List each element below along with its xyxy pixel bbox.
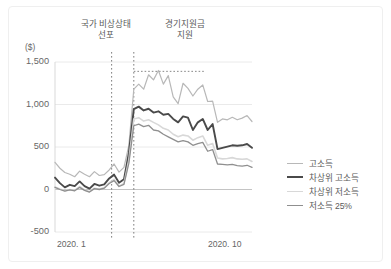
legend-line-icon	[287, 163, 303, 164]
series-line	[55, 124, 252, 192]
legend-item[interactable]: 차상위 고소득	[287, 170, 387, 184]
x-tick-label: 2020. 1	[57, 239, 86, 249]
legend-item-label: 차상위 고소득	[309, 171, 359, 183]
legend-line-icon	[287, 191, 303, 192]
legend-line-icon	[287, 176, 303, 178]
y-tick-label: 500	[9, 141, 49, 151]
data-series-group	[55, 71, 252, 193]
plot-area	[0, 0, 391, 269]
legend-item[interactable]: 차상위 저소득	[287, 184, 387, 198]
legend-item[interactable]: 고소득	[287, 156, 387, 170]
legend-item-label: 고소득	[309, 157, 333, 169]
chart-figure: 국가 비상상태 선포 경기지원금 지원 ($) 1,5001,0005000-5…	[0, 0, 391, 269]
legend-item-label: 저소득 25%	[309, 199, 352, 211]
y-tick-label: -500	[9, 226, 49, 236]
series-line	[55, 71, 252, 177]
legend-item[interactable]: 저소득 25%	[287, 198, 387, 212]
y-tick-label: 1,000	[9, 99, 49, 109]
chart-legend: 고소득차상위 고소득차상위 저소득저소득 25%	[287, 156, 387, 212]
y-tick-label: 0	[9, 184, 49, 194]
series-line	[55, 118, 252, 192]
legend-line-icon	[287, 205, 303, 206]
legend-item-label: 차상위 저소득	[309, 185, 359, 197]
x-tick-label: 2020. 10	[208, 239, 241, 249]
y-tick-label: 1,500	[9, 56, 49, 66]
